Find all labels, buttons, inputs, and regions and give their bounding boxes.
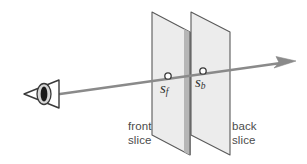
eye-icon xyxy=(24,80,59,108)
back-slice-caption-line1: back xyxy=(232,120,257,134)
back-slice-caption: back slice xyxy=(232,120,257,147)
sample-point-front-marker xyxy=(165,73,171,79)
sample-label-back: sb xyxy=(195,74,206,91)
sample-label-back-subscript: b xyxy=(201,81,206,91)
sample-label-front-subscript: f xyxy=(166,87,169,97)
front-slice-caption-line1: front xyxy=(128,120,152,134)
back-slice-caption-line2: slice xyxy=(232,134,257,148)
front-slice-caption-line2: slice xyxy=(128,134,152,148)
ray-casting-diagram: sf sb front slice back slice xyxy=(0,0,307,164)
front-slice-shaded-edge xyxy=(184,29,190,155)
front-slice-plane xyxy=(152,12,190,155)
sample-label-front: sf xyxy=(160,80,168,97)
pupil-icon xyxy=(41,87,48,102)
front-slice-caption: front slice xyxy=(128,120,152,147)
diagram-canvas xyxy=(0,0,307,164)
